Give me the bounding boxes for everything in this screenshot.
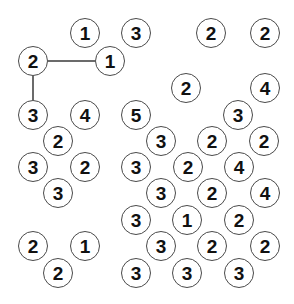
graph-node[interactable]: 4 (70, 100, 100, 130)
graph-node[interactable]: 3 (146, 231, 176, 261)
graph-node-label: 2 (181, 78, 192, 97)
graph-node-label: 3 (233, 105, 244, 124)
graph-node[interactable]: 2 (18, 231, 48, 261)
graph-node-label: 3 (131, 210, 142, 229)
graph-node[interactable]: 5 (121, 100, 151, 130)
graph-node-label: 4 (260, 78, 271, 97)
graph-node-label: 3 (234, 263, 245, 282)
graph-node-label: 4 (80, 105, 91, 124)
graph-node[interactable]: 3 (43, 178, 73, 208)
graph-node-label: 2 (80, 157, 91, 176)
graph-node[interactable]: 3 (121, 18, 151, 48)
graph-node-label: 3 (53, 183, 64, 202)
graph-node-label: 2 (206, 23, 217, 42)
graph-node[interactable]: 2 (197, 231, 227, 261)
graph-node[interactable]: 1 (172, 205, 202, 235)
graph-node-label: 2 (260, 23, 271, 42)
graph-node-label: 3 (156, 131, 167, 150)
graph-node[interactable]: 1 (95, 46, 125, 76)
graph-node-label: 5 (131, 105, 142, 124)
graph-node[interactable]: 2 (171, 73, 201, 103)
graph-node-label: 3 (182, 263, 193, 282)
graph-node-label: 1 (80, 23, 91, 42)
graph-node-label: 3 (28, 105, 39, 124)
graph-node-label: 1 (80, 236, 91, 255)
graph-node-label: 2 (259, 131, 270, 150)
graph-node-label: 3 (131, 157, 142, 176)
graph-node[interactable]: 3 (121, 258, 151, 288)
graph-node[interactable]: 4 (250, 178, 280, 208)
graph-node[interactable]: 2 (197, 126, 227, 156)
graph-node[interactable]: 1 (70, 18, 100, 48)
graph-node-label: 2 (53, 263, 64, 282)
graph-node[interactable]: 1 (70, 231, 100, 261)
graph-node-label: 1 (182, 210, 193, 229)
node-graph-canvas: 1322212434532322323243324312213222333 (0, 0, 294, 304)
graph-node[interactable]: 3 (223, 100, 253, 130)
graph-node[interactable]: 3 (146, 178, 176, 208)
graph-node-label: 2 (234, 210, 245, 229)
graph-node[interactable]: 3 (121, 205, 151, 235)
graph-node[interactable]: 2 (18, 46, 48, 76)
graph-node-label: 2 (207, 236, 218, 255)
graph-node[interactable]: 3 (121, 152, 151, 182)
graph-node-label: 2 (53, 131, 64, 150)
graph-node[interactable]: 3 (18, 152, 48, 182)
graph-node[interactable]: 2 (197, 178, 227, 208)
graph-node-label: 2 (207, 131, 218, 150)
graph-node[interactable]: 2 (43, 258, 73, 288)
graph-node-label: 4 (260, 183, 271, 202)
graph-node[interactable]: 3 (146, 126, 176, 156)
graph-node[interactable]: 2 (173, 152, 203, 182)
graph-node-label: 2 (260, 236, 271, 255)
graph-node-label: 2 (183, 157, 194, 176)
graph-node[interactable]: 3 (18, 100, 48, 130)
graph-node-label: 3 (28, 157, 39, 176)
graph-node[interactable]: 2 (250, 231, 280, 261)
graph-node[interactable]: 2 (224, 205, 254, 235)
graph-node[interactable]: 4 (250, 73, 280, 103)
graph-node-label: 2 (28, 236, 39, 255)
graph-node[interactable]: 2 (250, 18, 280, 48)
graph-node[interactable]: 4 (224, 152, 254, 182)
graph-node[interactable]: 3 (224, 258, 254, 288)
graph-node-label: 3 (131, 23, 142, 42)
graph-node[interactable]: 2 (249, 126, 279, 156)
graph-node[interactable]: 3 (172, 258, 202, 288)
graph-node[interactable]: 2 (43, 126, 73, 156)
graph-node-label: 3 (156, 183, 167, 202)
graph-node-label: 2 (207, 183, 218, 202)
graph-node-label: 1 (105, 51, 116, 70)
graph-node-label: 2 (28, 51, 39, 70)
graph-node[interactable]: 2 (70, 152, 100, 182)
graph-node[interactable]: 2 (196, 18, 226, 48)
graph-node-label: 3 (156, 236, 167, 255)
graph-node-label: 4 (234, 157, 245, 176)
node-layer: 1322212434532322323243324312213222333 (0, 0, 294, 304)
graph-node-label: 3 (131, 263, 142, 282)
